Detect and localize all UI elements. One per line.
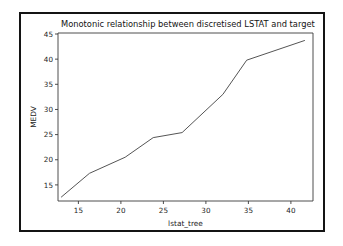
x-tick-label: 40 (286, 206, 296, 215)
y-tick-label: 40 (44, 55, 54, 64)
y-tick-label: 25 (44, 130, 53, 139)
plot-axes-frame (58, 33, 313, 201)
x-tick-label: 30 (201, 206, 211, 215)
y-tick-label: 30 (44, 105, 54, 114)
x-axis-ticks: 152025303540 (74, 201, 296, 215)
line-chart: Monotonic relationship between discretis… (21, 14, 323, 230)
y-axis-ticks: 15202530354045 (44, 30, 58, 190)
figure-border: Monotonic relationship between discretis… (19, 12, 325, 232)
x-tick-label: 25 (159, 206, 168, 215)
x-tick-label: 15 (74, 206, 83, 215)
y-tick-label: 35 (44, 80, 53, 89)
x-tick-label: 20 (116, 206, 126, 215)
chart-title: Monotonic relationship between discretis… (61, 19, 316, 29)
x-tick-label: 35 (244, 206, 253, 215)
y-axis-label: MEDV (29, 106, 38, 128)
data-line-series-0 (61, 41, 304, 197)
y-tick-label: 45 (44, 30, 53, 39)
figure-canvas: Monotonic relationship between discretis… (21, 14, 323, 230)
x-axis-label: lstat_tree (168, 219, 203, 228)
y-tick-label: 15 (44, 181, 53, 190)
y-tick-label: 20 (44, 155, 54, 164)
